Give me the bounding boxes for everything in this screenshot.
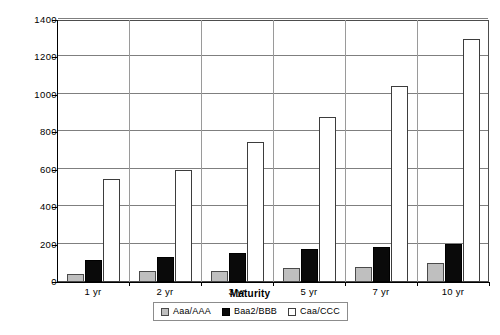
gridline — [58, 18, 488, 19]
bar — [157, 257, 174, 282]
bar — [463, 39, 480, 282]
y-tick-label: 600 — [11, 165, 57, 175]
y-tick-label: 1400 — [11, 15, 57, 25]
legend-label: Caa/CCC — [300, 307, 340, 316]
bar-series-layer — [57, 20, 489, 282]
x-tick-mark — [201, 282, 202, 286]
legend-swatch-icon — [288, 308, 296, 316]
bar-group — [57, 20, 129, 282]
x-tick-mark — [489, 282, 490, 286]
y-tick-label: 1200 — [11, 52, 57, 62]
x-tick-mark — [129, 282, 130, 286]
bar — [103, 179, 120, 282]
bar — [247, 142, 264, 282]
legend-label: Baa2/BBB — [234, 307, 277, 316]
bar — [319, 117, 336, 282]
bar — [211, 271, 228, 282]
y-tick-label: 400 — [11, 202, 57, 212]
bar-group — [273, 20, 345, 282]
bar-group — [201, 20, 273, 282]
bar — [373, 247, 390, 282]
legend-item[interactable]: Baa2/BBB — [222, 307, 277, 316]
legend-swatch-icon — [161, 308, 169, 316]
legend-item[interactable]: Aaa/AAA — [161, 307, 211, 316]
bar-group — [345, 20, 417, 282]
bar — [427, 263, 444, 282]
x-axis-title: Maturity — [0, 288, 500, 299]
legend-swatch-icon — [222, 308, 230, 316]
bar-group — [129, 20, 201, 282]
bar — [85, 260, 102, 282]
x-tick-mark — [417, 282, 418, 286]
legend-item[interactable]: Caa/CCC — [288, 307, 340, 316]
bar — [67, 274, 84, 282]
bar — [175, 170, 192, 282]
bar — [229, 253, 246, 282]
bar — [391, 86, 408, 283]
bar — [139, 271, 156, 282]
bar-chart: 0200400600800100012001400 1 yr2 yr3 yr5 … — [0, 0, 500, 335]
bar — [355, 267, 372, 282]
y-tick-label: 200 — [11, 240, 57, 250]
x-tick-mark — [345, 282, 346, 286]
y-axis: 0200400600800100012001400 — [0, 0, 57, 335]
y-tick-label: 800 — [11, 127, 57, 137]
y-tick-label: 1000 — [11, 90, 57, 100]
bar — [301, 249, 318, 282]
bar — [283, 268, 300, 282]
legend-label: Aaa/AAA — [173, 307, 211, 316]
chart-legend: Aaa/AAABaa2/BBBCaa/CCC — [153, 302, 348, 321]
y-tick-label: 0 — [11, 277, 57, 287]
bar-group — [417, 20, 489, 282]
x-tick-mark — [273, 282, 274, 286]
bar — [445, 244, 462, 282]
